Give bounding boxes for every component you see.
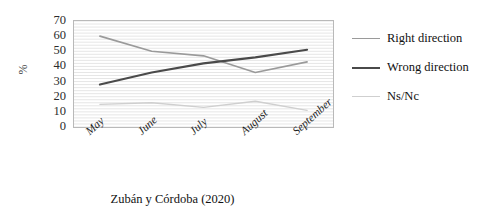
x-axis-tick-labels: MayJuneJulyAugustSeptember bbox=[73, 128, 332, 180]
y-axis-title: % bbox=[16, 59, 31, 81]
figure: % 706050403020100 MayJuneJulyAugustSepte… bbox=[0, 0, 501, 222]
series-canvas bbox=[74, 21, 333, 127]
y-axis-tick-label: 70 bbox=[54, 14, 67, 27]
legend-item-label: Right direction bbox=[387, 31, 462, 46]
legend-item-label: Ns/Nc bbox=[387, 89, 419, 104]
gridlines bbox=[74, 21, 333, 127]
plot-area bbox=[73, 20, 334, 128]
figure-caption: Zubán y Córdoba (2020) bbox=[0, 192, 345, 207]
y-axis-tick-label: 50 bbox=[54, 44, 67, 57]
legend-color-swatch bbox=[352, 67, 380, 69]
y-axis-tick-label: 40 bbox=[54, 59, 67, 72]
legend-color-swatch bbox=[352, 38, 380, 39]
legend: Right directionWrong directionNs/Nc bbox=[352, 24, 500, 111]
legend-color-swatch bbox=[352, 96, 380, 97]
y-axis-tick-label: 30 bbox=[54, 75, 67, 88]
legend-item-label: Wrong direction bbox=[387, 60, 469, 75]
y-axis-tick-labels: 706050403020100 bbox=[36, 14, 66, 132]
y-axis-tick-label: 0 bbox=[60, 120, 66, 133]
legend-item[interactable]: Right direction bbox=[352, 24, 500, 53]
series-line bbox=[100, 50, 307, 85]
legend-item[interactable]: Ns/Nc bbox=[352, 82, 500, 111]
y-axis-tick-label: 60 bbox=[54, 29, 67, 42]
y-axis-tick-label: 20 bbox=[54, 90, 67, 103]
chart: % 706050403020100 MayJuneJulyAugustSepte… bbox=[0, 0, 345, 180]
legend-item[interactable]: Wrong direction bbox=[352, 53, 500, 82]
y-axis-tick-label: 10 bbox=[54, 105, 67, 118]
